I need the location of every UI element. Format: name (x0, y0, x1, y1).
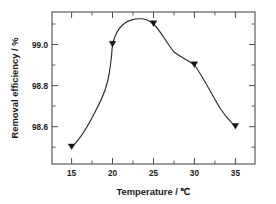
y-tick-label-98-6: 98.6 (32, 123, 48, 132)
y-axis-title: Removal efficiency / % (9, 37, 20, 139)
x-tick-label-15: 15 (67, 169, 77, 178)
x-tick-label-30: 30 (190, 169, 200, 178)
x-axis-title: Temperature / ℃ (117, 186, 191, 197)
y-tick-label-98-8: 98.8 (32, 82, 48, 91)
x-tick-label-20: 20 (108, 169, 118, 178)
y-tick-label-99-0: 99.0 (32, 41, 48, 50)
line-chart: 99.0 98.8 98.6 15 20 25 30 35 Temperatur… (0, 0, 276, 204)
plot-area-background (52, 12, 255, 164)
x-tick-label-25: 25 (149, 169, 159, 178)
chart-figure: 99.0 98.8 98.6 15 20 25 30 35 Temperatur… (0, 0, 276, 204)
x-tick-label-35: 35 (231, 169, 241, 178)
